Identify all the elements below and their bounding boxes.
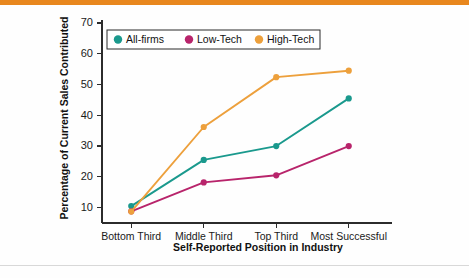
- series-line: [131, 98, 349, 206]
- y-tick-label: 10: [81, 201, 93, 213]
- chart-page: Percentage of Current Sales Contributed …: [0, 0, 469, 278]
- legend-label: All-firms: [126, 33, 164, 45]
- data-point-marker: [273, 172, 279, 178]
- data-point-marker: [201, 179, 207, 185]
- series-line: [131, 146, 349, 211]
- y-tick-label: 70: [81, 16, 93, 28]
- bottom-divider: [0, 265, 469, 266]
- x-axis-title: Self-Reported Position in Industry: [173, 241, 343, 253]
- y-axis-ticks: 10203040506070: [81, 16, 102, 213]
- y-tick-label: 60: [81, 47, 93, 59]
- legend-label: High-Tech: [267, 33, 314, 45]
- series-all-firms: [128, 95, 352, 209]
- y-tick-label: 40: [81, 109, 93, 121]
- series-high-tech: [128, 68, 352, 215]
- data-point-marker: [273, 74, 279, 80]
- data-point-marker: [201, 124, 207, 130]
- chart-legend: All-firmsLow-TechHigh-Tech: [107, 30, 320, 49]
- data-point-marker: [346, 68, 352, 74]
- legend-swatch-high-tech: [255, 35, 263, 43]
- y-tick-label: 50: [81, 78, 93, 90]
- series-line: [131, 71, 349, 212]
- data-point-marker: [128, 209, 134, 215]
- legend-swatch-all-firms: [114, 35, 122, 43]
- data-point-marker: [273, 143, 279, 149]
- line-chart-figure: Percentage of Current Sales Contributed …: [0, 5, 469, 263]
- x-axis-ticks: Bottom ThirdMiddle ThirdTop ThirdMost Su…: [101, 223, 387, 242]
- y-tick-label: 20: [81, 170, 93, 182]
- legend-swatch-low-tech: [185, 35, 193, 43]
- data-point-marker: [346, 143, 352, 149]
- chart-svg: Percentage of Current Sales Contributed …: [0, 5, 469, 263]
- data-point-marker: [346, 95, 352, 101]
- x-tick-label: Bottom Third: [101, 230, 161, 242]
- y-tick-label: 30: [81, 139, 93, 151]
- data-point-marker: [201, 157, 207, 163]
- series-layer: [128, 68, 352, 215]
- legend-label: Low-Tech: [197, 33, 242, 45]
- y-axis-title: Percentage of Current Sales Contributed: [58, 16, 70, 219]
